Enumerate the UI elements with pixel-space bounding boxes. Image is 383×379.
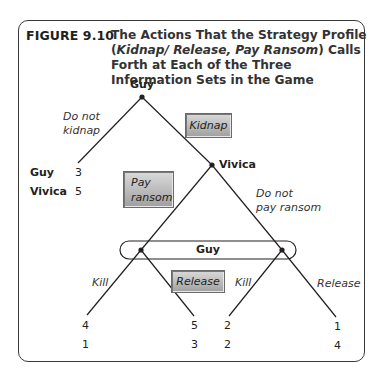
action-release-right: Release <box>317 277 360 290</box>
action-kidnap: Kidnap <box>190 119 228 132</box>
action-kill-left: Kill <box>92 276 108 289</box>
payoff-do-not-kidnap-guy: 3 <box>75 166 82 179</box>
info-node-right <box>279 247 284 252</box>
vivica-node <box>209 162 214 167</box>
action-release-left: Release <box>176 275 219 288</box>
payoff-nopay-release-vivica: 4 <box>334 339 341 352</box>
payoff-do-not-kidnap-vivica: 5 <box>75 185 82 198</box>
payoff-label-vivica: Vivica <box>30 185 67 198</box>
root-player-label: Guy <box>130 78 154 91</box>
root-node <box>139 94 144 99</box>
payoff-pay-release-vivica: 3 <box>191 338 198 351</box>
payoff-label-guy: Guy <box>30 166 54 179</box>
payoff-nopay-kill-guy: 2 <box>224 319 231 332</box>
action-pay-ransom-highlight: Pay ransom <box>123 171 174 208</box>
action-pay-ransom-2: ransom <box>131 190 173 205</box>
payoff-nopay-kill-vivica: 2 <box>224 338 231 351</box>
vivica-player-label: Vivica <box>219 158 256 171</box>
payoff-nopay-release-guy: 1 <box>334 320 341 333</box>
info-node-left <box>138 247 143 252</box>
payoff-pay-kill-vivica: 1 <box>82 338 89 351</box>
action-do-not-kidnap-2: kidnap <box>63 124 100 137</box>
action-kidnap-highlight: Kidnap <box>185 113 232 138</box>
action-release-left-highlight: Release <box>171 270 225 293</box>
payoff-pay-kill-guy: 4 <box>82 319 89 332</box>
action-do-not-pay-2: pay ransom <box>256 201 321 214</box>
action-kill-right: Kill <box>235 276 251 289</box>
action-do-not-kidnap-1: Do not <box>63 110 100 123</box>
info-set-player-label: Guy <box>196 243 220 256</box>
action-do-not-pay-1: Do not <box>256 187 293 200</box>
action-pay-ransom-1: Pay <box>131 175 173 190</box>
payoff-pay-release-guy: 5 <box>191 319 198 332</box>
